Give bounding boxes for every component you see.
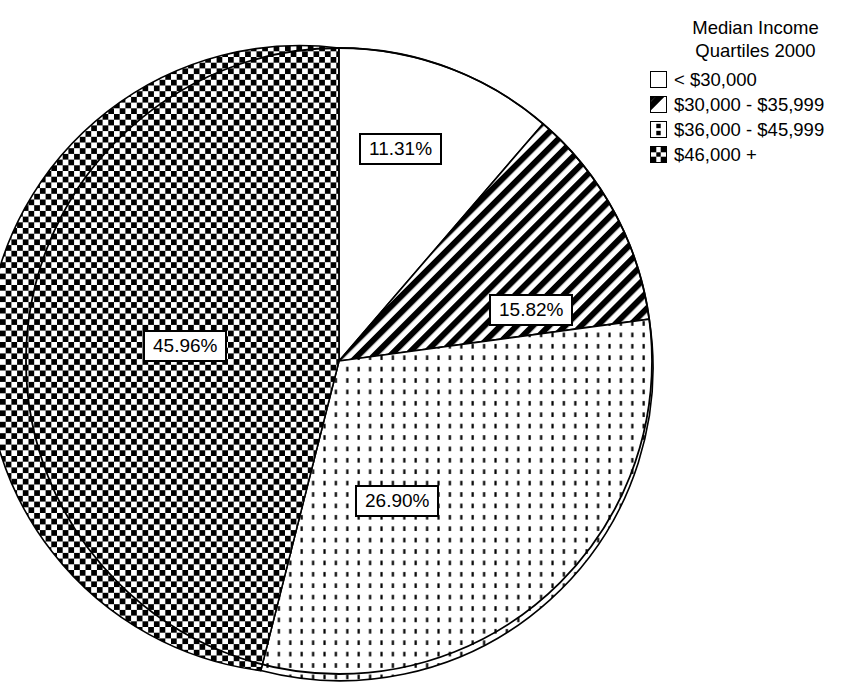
legend-swatch-diagonal-stripes-icon [650, 96, 667, 113]
legend-swatch-vertical-dotted-icon [650, 121, 667, 138]
legend-item-30000-35999: $30,000 - $35,999 [650, 93, 855, 116]
legend-swatch-solid-white-icon [650, 71, 667, 88]
legend: Median Income Quartiles 2000 < $30,000 $… [650, 16, 855, 168]
legend-swatch-checkerboard-icon [650, 146, 667, 163]
legend-item-label: < $30,000 [674, 70, 757, 89]
legend-item-label: $30,000 - $35,999 [674, 95, 824, 114]
slice-value-label-under-30000: 11.31% [359, 133, 442, 165]
slice-value-label-36000-45999: 26.90% [355, 485, 439, 517]
legend-title-line-1: Median Income [650, 16, 855, 39]
slice-value-label-46000-plus: 45.96% [143, 330, 227, 362]
legend-title-line-2: Quartiles 2000 [650, 39, 855, 62]
legend-item-label: $46,000 + [674, 145, 757, 164]
legend-entry-list: < $30,000 $30,000 - $35,999 $36,000 - $4… [650, 68, 855, 166]
legend-item-36000-45999: $36,000 - $45,999 [650, 118, 855, 141]
pie-chart-figure: 11.31% 15.82% 26.90% 45.96% Median Incom… [0, 0, 863, 696]
legend-item-label: $36,000 - $45,999 [674, 120, 824, 139]
slice-value-label-30000-35999: 15.82% [489, 294, 573, 326]
legend-item-46000-plus: $46,000 + [650, 143, 855, 166]
legend-item-under-30000: < $30,000 [650, 68, 855, 91]
